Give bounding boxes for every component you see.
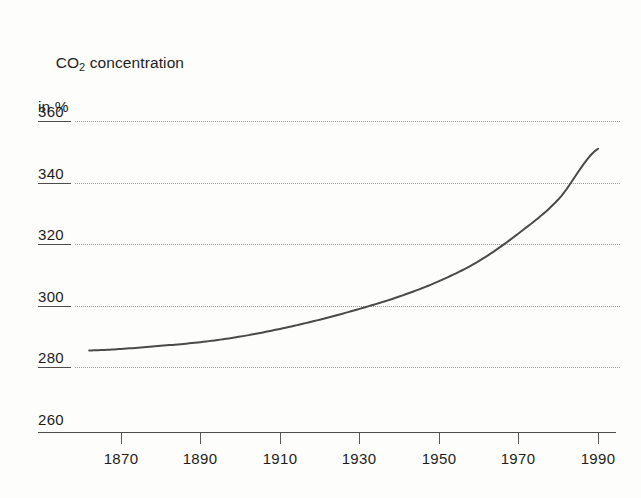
x-axis-tick-1910	[280, 433, 281, 444]
x-axis-label-1870: 1870	[104, 450, 139, 467]
x-axis-tick-1930	[359, 433, 360, 444]
x-axis-line	[38, 432, 616, 433]
y-axis-label-280: 280	[38, 349, 64, 366]
y-axis-label-360: 360	[38, 103, 64, 120]
y-axis-tick-360	[38, 121, 71, 122]
gridline-300	[75, 306, 620, 307]
gridline-280	[75, 367, 620, 368]
x-axis-label-1990: 1990	[581, 450, 616, 467]
x-axis-label-1970: 1970	[501, 450, 536, 467]
gridline-320	[75, 244, 620, 245]
gridline-340	[75, 183, 620, 184]
y-axis-tick-340	[38, 183, 71, 184]
y-axis-label-340: 340	[38, 165, 64, 182]
x-axis-label-1890: 1890	[183, 450, 218, 467]
co2-trend-line	[89, 149, 598, 351]
y-axis-label-260: 260	[38, 411, 64, 428]
x-axis-tick-1890	[200, 433, 201, 444]
x-axis-tick-1950	[439, 433, 440, 444]
x-axis-label-1910: 1910	[263, 450, 298, 467]
co2-concentration-chart: CO2 concentration in % 360 340 320 300 2…	[0, 0, 641, 498]
co2-curve-svg	[0, 0, 641, 498]
x-axis-label-1930: 1930	[342, 450, 377, 467]
y-axis-tick-300	[38, 306, 71, 307]
y-axis-label-300: 300	[38, 288, 64, 305]
y-axis-tick-320	[38, 244, 71, 245]
gridline-360	[75, 121, 620, 122]
x-axis-tick-1870	[121, 433, 122, 444]
plot-area: 360 340 320 300 280 260 1870 1890 1910 1…	[0, 0, 641, 498]
x-axis-tick-1970	[518, 433, 519, 444]
x-axis-label-1950: 1950	[422, 450, 457, 467]
y-axis-tick-280	[38, 367, 71, 368]
y-axis-label-320: 320	[38, 226, 64, 243]
x-axis-tick-1990	[598, 433, 599, 444]
